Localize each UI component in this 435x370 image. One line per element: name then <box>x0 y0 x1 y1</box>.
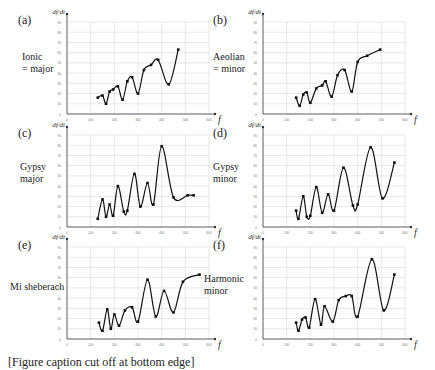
data-point <box>381 197 384 200</box>
svg-text:0: 0 <box>66 343 68 347</box>
y-axis-label: df/dt <box>248 121 262 129</box>
svg-text:90: 90 <box>253 246 257 250</box>
data-point <box>124 309 127 312</box>
svg-text:300: 300 <box>135 343 141 347</box>
data-point <box>157 59 160 62</box>
svg-text:600: 600 <box>206 118 212 122</box>
data-point <box>393 273 396 276</box>
svg-text:600: 600 <box>402 343 408 347</box>
y-axis-label: df/dt <box>248 233 262 241</box>
svg-text:100: 100 <box>88 343 94 347</box>
svg-text:90: 90 <box>57 134 61 138</box>
data-point <box>321 211 324 214</box>
data-point <box>324 80 327 83</box>
svg-text:0: 0 <box>59 338 61 342</box>
data-point <box>105 215 108 218</box>
data-point <box>108 90 111 93</box>
svg-text:50: 50 <box>57 174 61 178</box>
data-point <box>320 323 323 326</box>
data-point <box>314 298 317 301</box>
svg-text:600: 600 <box>206 343 212 347</box>
svg-text:10: 10 <box>57 215 61 219</box>
svg-text:200: 200 <box>112 231 118 235</box>
data-point <box>309 214 312 217</box>
data-point <box>182 280 185 283</box>
svg-text:70: 70 <box>253 154 257 158</box>
svg-text:70: 70 <box>57 266 61 270</box>
data-point <box>337 299 340 302</box>
svg-text:90: 90 <box>57 246 61 250</box>
svg-text:0: 0 <box>255 338 257 342</box>
svg-text:400: 400 <box>355 118 361 122</box>
data-point <box>304 316 307 319</box>
data-point <box>108 203 111 206</box>
svg-text:500: 500 <box>183 231 189 235</box>
data-line <box>98 146 194 219</box>
data-point <box>371 258 374 261</box>
panel-label: (d) <box>213 126 227 140</box>
data-point <box>379 48 382 51</box>
svg-text:80: 80 <box>253 256 257 260</box>
data-point <box>139 205 142 208</box>
svg-text:600: 600 <box>402 231 408 235</box>
svg-text:300: 300 <box>331 118 337 122</box>
data-point <box>131 306 134 309</box>
figure-caption: [Figure caption cut off at bottom edge] <box>8 355 194 370</box>
svg-text:50: 50 <box>253 61 257 65</box>
data-point <box>137 92 140 95</box>
data-point <box>305 215 308 218</box>
data-line <box>296 50 380 106</box>
svg-text:100: 100 <box>284 118 290 122</box>
svg-text:80: 80 <box>57 31 61 35</box>
svg-text:40: 40 <box>253 185 257 189</box>
svg-text:20: 20 <box>57 205 61 209</box>
data-point <box>302 93 305 96</box>
chart-panel-3: 01020304050607080900100200300400500600df… <box>18 121 222 238</box>
data-point <box>121 98 124 101</box>
svg-text:40: 40 <box>253 297 257 301</box>
data-point <box>366 54 369 57</box>
panel-label: (f) <box>213 238 225 252</box>
svg-text:500: 500 <box>379 118 385 122</box>
x-axis-label: f <box>414 227 418 238</box>
data-point <box>297 330 300 333</box>
data-point <box>356 315 359 318</box>
svg-text:90: 90 <box>253 134 257 138</box>
data-line <box>99 275 200 332</box>
svg-text:70: 70 <box>57 41 61 45</box>
svg-text:100: 100 <box>284 231 290 235</box>
data-point <box>123 210 126 213</box>
data-point <box>333 209 336 212</box>
x-axis-label: f <box>218 227 222 238</box>
svg-text:80: 80 <box>253 31 257 35</box>
svg-text:500: 500 <box>183 118 189 122</box>
svg-text:40: 40 <box>57 185 61 189</box>
chart-panel-6: 01020304050607080900100200300400500600df… <box>204 233 418 350</box>
data-point <box>382 309 385 312</box>
panel-scale-name: Gypsy <box>20 161 46 172</box>
data-point <box>330 95 333 98</box>
panel-label: (a) <box>18 13 31 27</box>
svg-text:200: 200 <box>308 231 314 235</box>
data-point <box>315 87 318 90</box>
panel-label: (c) <box>18 126 31 140</box>
svg-text:500: 500 <box>379 343 385 347</box>
data-point <box>327 193 330 196</box>
svg-text:0: 0 <box>255 226 257 230</box>
y-axis-label: df/dt <box>52 233 66 241</box>
panel-scale-name: Gypsy <box>213 161 239 172</box>
data-point <box>301 318 304 321</box>
svg-text:60: 60 <box>253 276 257 280</box>
data-point <box>198 273 201 276</box>
panel-scale-name: major <box>20 173 44 184</box>
x-axis-label: f <box>414 114 418 125</box>
data-point <box>336 74 339 77</box>
svg-text:80: 80 <box>253 144 257 148</box>
data-point <box>109 327 112 330</box>
data-point <box>332 320 335 323</box>
svg-text:60: 60 <box>57 51 61 55</box>
y-axis-label: df/dt <box>248 8 262 16</box>
data-point <box>96 96 99 99</box>
data-point <box>309 101 312 104</box>
svg-text:100: 100 <box>88 118 94 122</box>
